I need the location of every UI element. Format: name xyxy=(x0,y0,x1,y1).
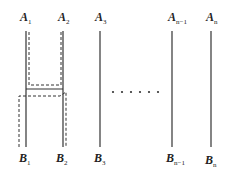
ellipsis-dot xyxy=(121,91,123,93)
label-a-n-minus-1: An−1 xyxy=(167,10,187,26)
label-an: An xyxy=(205,10,218,26)
ellipsis-dot xyxy=(139,91,141,93)
label-a1: A1 xyxy=(19,10,32,26)
label-a2: A2 xyxy=(57,10,70,26)
ellipsis xyxy=(112,91,159,93)
diagram-svg: A1 A2 A3 An−1 An B1 B2 B3 Bn−1 Bn xyxy=(0,0,233,176)
label-a3: A3 xyxy=(94,10,107,26)
ellipsis-dot xyxy=(130,91,132,93)
label-b1: B1 xyxy=(18,151,31,167)
label-b2: B2 xyxy=(55,151,68,167)
label-bn: Bn xyxy=(204,153,217,169)
dashed-path-upper xyxy=(29,32,61,85)
wire-diagram: A1 A2 A3 An−1 An B1 B2 B3 Bn−1 Bn xyxy=(0,0,233,176)
label-b3: B3 xyxy=(93,151,106,167)
ellipsis-dot xyxy=(112,91,114,93)
ellipsis-dot xyxy=(157,91,159,93)
label-b-n-minus-1: Bn−1 xyxy=(165,151,185,167)
ellipsis-dot xyxy=(148,91,150,93)
